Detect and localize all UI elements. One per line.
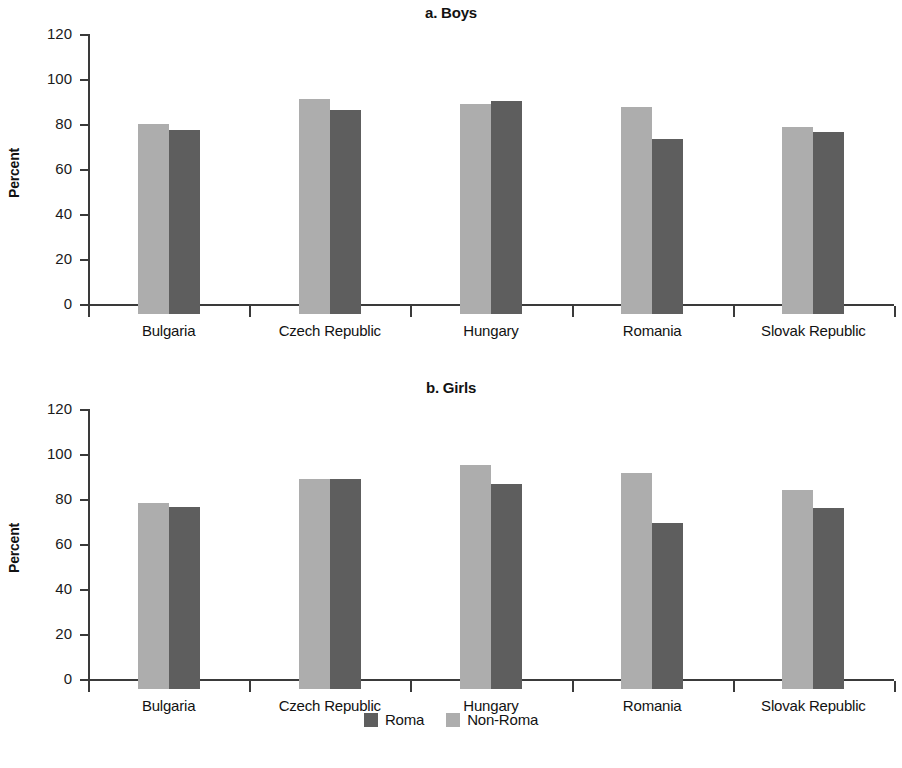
chart-legend: RomaNon-Roma (0, 712, 902, 727)
y-tick: 80 (0, 499, 89, 501)
bar-group (733, 42, 894, 314)
bar-roma-bulgaria (169, 130, 200, 315)
y-tick-label: 120 (28, 26, 72, 41)
y-tick-mark (80, 409, 89, 411)
x-category-label: Romania (572, 322, 733, 339)
bar-roma-slovak-republic (813, 132, 844, 314)
x-category-label: Bulgaria (88, 322, 249, 339)
y-tick-label: 100 (28, 71, 72, 86)
y-tick: 20 (0, 259, 89, 261)
y-tick: 60 (0, 544, 89, 546)
bars (572, 42, 733, 314)
bar-roma-bulgaria (169, 507, 200, 689)
bars (88, 417, 249, 689)
y-tick: 40 (0, 589, 89, 591)
chart-panel-girls: b. Girls Percent 020406080100120 Bulgari… (0, 375, 902, 733)
y-tick-label: 0 (28, 671, 72, 686)
y-tick-label: 60 (28, 161, 72, 176)
legend-swatch-icon (446, 713, 460, 727)
bar-group (249, 42, 410, 314)
legend-item-non-roma: Non-Roma (446, 712, 538, 727)
plot-area-girls: 020406080100120 BulgariaCzech RepublicHu… (0, 401, 902, 691)
bar-group (572, 42, 733, 314)
y-tick: 0 (0, 679, 89, 681)
bar-non-roma-slovak-republic (782, 127, 813, 314)
y-tick-label: 80 (28, 491, 72, 506)
bar-non-roma-romania (621, 107, 652, 314)
bar-non-roma-bulgaria (138, 124, 169, 314)
y-tick: 100 (0, 79, 89, 81)
chart-title-boys: a. Boys (0, 0, 902, 26)
y-tick-label: 80 (28, 116, 72, 131)
chart-title-girls: b. Girls (0, 375, 902, 401)
x-category-label: Czech Republic (249, 322, 410, 339)
y-tick: 100 (0, 454, 89, 456)
bars (410, 42, 571, 314)
x-category-label: Slovak Republic (733, 322, 894, 339)
y-tick-label: 40 (28, 206, 72, 221)
bar-non-roma-romania (621, 473, 652, 689)
y-tick-label: 60 (28, 536, 72, 551)
bar-group (88, 417, 249, 689)
chart-panel-boys: a. Boys Percent 020406080100120 Bulgaria… (0, 0, 902, 375)
y-tick: 120 (0, 409, 89, 411)
y-tick: 120 (0, 34, 89, 36)
y-tick-label: 20 (28, 626, 72, 641)
y-tick: 0 (0, 304, 89, 306)
x-tick-mark (894, 306, 896, 317)
bar-group (88, 42, 249, 314)
y-tick: 60 (0, 169, 89, 171)
bars (572, 417, 733, 689)
bar-roma-romania (652, 523, 683, 690)
bar-non-roma-slovak-republic (782, 490, 813, 689)
bar-roma-hungary (491, 484, 522, 689)
bar-non-roma-czech-republic (299, 479, 330, 689)
bar-group (410, 42, 571, 314)
y-tick-label: 120 (28, 401, 72, 416)
bar-group (249, 417, 410, 689)
bar-non-roma-hungary (460, 104, 491, 314)
bar-roma-romania (652, 139, 683, 315)
y-tick: 80 (0, 124, 89, 126)
legend-swatch-icon (364, 713, 378, 727)
bar-group (733, 417, 894, 689)
bar-group (572, 417, 733, 689)
bars (410, 417, 571, 689)
y-tick-label: 20 (28, 251, 72, 266)
bar-group (410, 417, 571, 689)
bar-roma-slovak-republic (813, 508, 844, 689)
bar-roma-czech-republic (330, 110, 361, 314)
bar-roma-czech-republic (330, 479, 361, 689)
legend-label: Non-Roma (467, 712, 538, 727)
bars (249, 417, 410, 689)
x-category-label: Hungary (410, 322, 571, 339)
y-tick-label: 40 (28, 581, 72, 596)
bar-non-roma-bulgaria (138, 503, 169, 689)
bar-roma-hungary (491, 101, 522, 314)
y-tick: 40 (0, 214, 89, 216)
figure-root: a. Boys Percent 020406080100120 Bulgaria… (0, 0, 902, 768)
y-tick-label: 0 (28, 296, 72, 311)
y-tick-mark (80, 34, 89, 36)
y-tick-label: 100 (28, 446, 72, 461)
x-tick-mark (894, 681, 896, 692)
y-tick: 20 (0, 634, 89, 636)
bars (733, 417, 894, 689)
bar-non-roma-czech-republic (299, 99, 330, 314)
bars (88, 42, 249, 314)
bars (733, 42, 894, 314)
legend-item-roma: Roma (364, 712, 424, 727)
plot-area-boys: 020406080100120 BulgariaCzech RepublicHu… (0, 26, 902, 316)
bars (249, 42, 410, 314)
legend-label: Roma (385, 712, 424, 727)
bar-non-roma-hungary (460, 465, 491, 689)
